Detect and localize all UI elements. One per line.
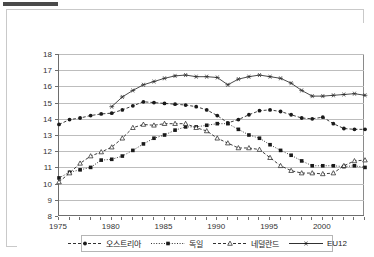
legend-symbol-star-icon (288, 238, 324, 249)
legend-item-2[interactable]: 네덜란드 (212, 238, 279, 249)
legend-symbol-open-triangle-icon (212, 238, 248, 249)
data-point-marker (320, 94, 325, 98)
data-point-marker (257, 147, 262, 151)
data-point-marker (247, 75, 252, 79)
y-axis-label: 17 (26, 66, 52, 75)
legend-item-1[interactable]: 독일 (150, 238, 203, 249)
x-axis-tick (111, 217, 112, 220)
y-axis-tick (55, 135, 58, 136)
x-axis-label: 1980 (102, 222, 120, 231)
data-point-marker (236, 118, 240, 122)
data-point-marker (258, 109, 262, 113)
series-layer (59, 54, 365, 216)
x-axis-tick (364, 217, 365, 220)
x-axis-tick (121, 217, 122, 220)
x-axis-tick (195, 217, 196, 220)
plot-area (58, 54, 364, 216)
data-point-marker (142, 142, 146, 146)
data-point-marker (163, 102, 167, 106)
y-axis-label: 12 (26, 147, 52, 156)
data-point-marker (183, 121, 188, 125)
data-point-marker (205, 108, 209, 112)
data-point-marker (363, 158, 368, 162)
legend-label: 네덜란드 (251, 238, 279, 249)
data-point-marker (363, 127, 367, 131)
data-point-marker (332, 164, 336, 168)
y-axis-label: 10 (26, 179, 52, 188)
series-line (59, 124, 365, 182)
series-3 (109, 73, 367, 109)
x-axis-label: 1995 (260, 222, 278, 231)
data-point-marker (304, 242, 309, 246)
x-axis-tick (142, 217, 143, 220)
data-point-marker (163, 133, 167, 137)
data-point-marker (184, 103, 188, 107)
data-point-marker (247, 146, 252, 150)
data-point-marker (121, 154, 125, 158)
data-point-marker (353, 127, 357, 131)
data-point-marker (268, 108, 272, 112)
y-axis-tick (55, 167, 58, 168)
data-point-marker (268, 143, 272, 147)
data-point-marker (162, 76, 167, 80)
data-point-marker (310, 117, 314, 121)
y-axis-label: 9 (26, 195, 52, 204)
data-point-marker (68, 118, 72, 122)
data-point-marker (110, 111, 114, 115)
data-point-marker (173, 102, 177, 106)
x-axis-tick (216, 217, 217, 220)
y-axis-label: 14 (26, 114, 52, 123)
data-point-marker (183, 73, 188, 77)
data-point-marker (89, 114, 93, 118)
legend-item-0[interactable]: 오스트리아 (67, 238, 141, 249)
data-point-marker (166, 242, 170, 246)
x-axis-label: 1975 (49, 222, 67, 231)
x-axis-tick (185, 217, 186, 220)
x-axis-label: 1985 (155, 222, 173, 231)
y-axis-tick (55, 86, 58, 87)
data-point-marker (289, 153, 293, 157)
data-point-marker (142, 100, 146, 104)
data-point-marker (310, 94, 315, 98)
page-frame: 89101112131415161718 1975198019851990199… (6, 9, 364, 247)
data-point-marker (131, 125, 136, 129)
chart-screenshot: 89101112131415161718 1975198019851990199… (0, 0, 374, 257)
data-point-marker (363, 166, 367, 170)
series-2 (57, 121, 368, 184)
x-axis-tick (343, 217, 344, 220)
x-axis-label: 1990 (207, 222, 225, 231)
x-axis-tick (332, 217, 333, 220)
legend-item-3[interactable]: EU12 (288, 238, 347, 249)
data-point-marker (279, 149, 283, 153)
x-axis-tick (153, 217, 154, 220)
y-axis-tick (55, 184, 58, 185)
data-point-marker (341, 93, 346, 97)
legend-label: 독일 (189, 238, 203, 249)
data-point-marker (152, 80, 157, 84)
data-point-marker (205, 123, 209, 127)
x-axis-tick (206, 217, 207, 220)
data-point-marker (331, 122, 335, 126)
y-axis-label: 18 (26, 50, 52, 59)
data-point-marker (57, 123, 61, 127)
data-point-marker (279, 110, 283, 114)
x-axis-tick (353, 217, 354, 220)
y-axis-tick (55, 103, 58, 104)
y-axis-tick (55, 70, 58, 71)
y-axis-tick (55, 151, 58, 152)
data-point-marker (215, 136, 220, 140)
data-point-marker (278, 76, 283, 80)
data-point-marker (83, 242, 87, 246)
data-point-marker (247, 133, 251, 137)
data-point-marker (268, 155, 273, 159)
data-point-marker (215, 114, 219, 118)
data-point-marker (353, 164, 357, 168)
data-point-marker (78, 168, 82, 172)
legend-label: EU12 (327, 239, 347, 248)
data-point-marker (257, 73, 262, 77)
data-point-marker (120, 108, 124, 112)
data-point-marker (141, 83, 146, 87)
x-axis-tick (100, 217, 101, 220)
data-point-marker (310, 164, 314, 168)
data-point-marker (78, 161, 83, 165)
